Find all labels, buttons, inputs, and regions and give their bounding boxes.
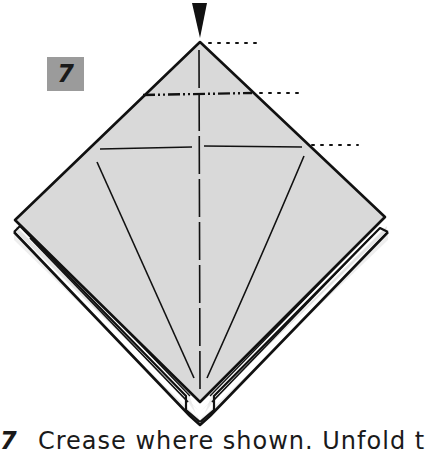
caption-text: Crease where shown. Unfold t	[38, 427, 425, 453]
step-number-badge: 7	[47, 57, 84, 91]
step-caption: 7Crease where shown. Unfold t	[0, 427, 420, 453]
step-number: 7	[57, 62, 74, 86]
caption-step-number: 7	[0, 427, 38, 453]
lower-horizontal-crease-right	[204, 146, 302, 147]
push-arrow-icon	[192, 3, 207, 38]
